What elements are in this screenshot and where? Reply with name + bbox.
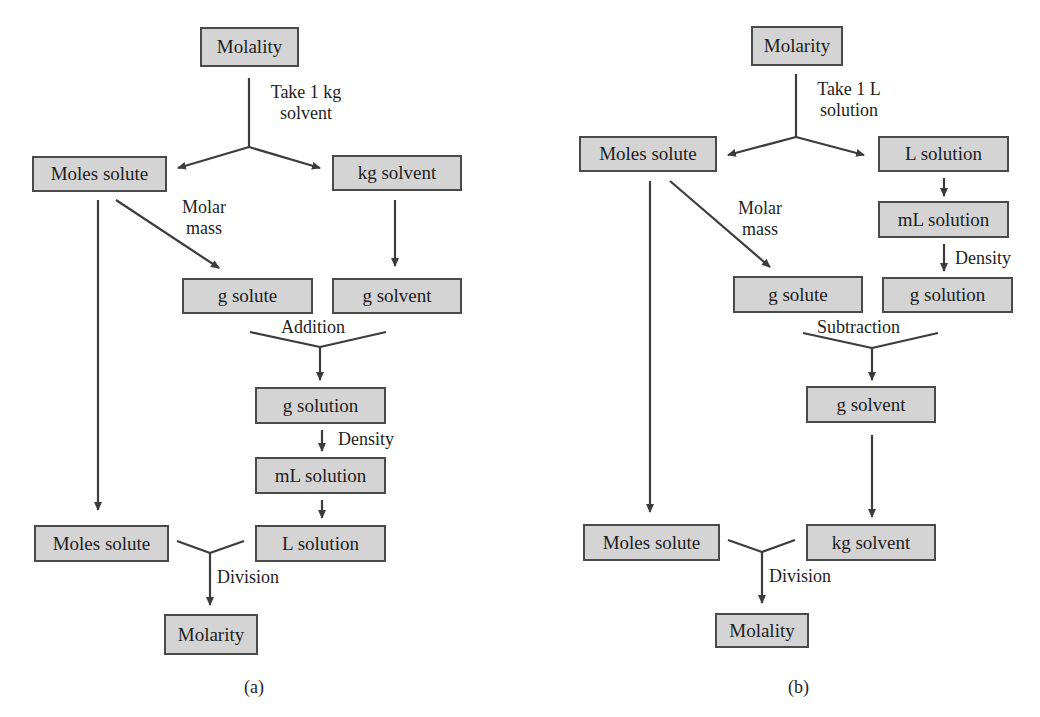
box-l-solution: L solution xyxy=(255,525,386,562)
box-g-solvent: g solvent xyxy=(332,278,462,314)
label-addition: Addition xyxy=(281,317,345,338)
box-ml-solution: mL solution xyxy=(255,457,386,494)
label-take-line1: Take 1 kg xyxy=(258,82,354,103)
box-moles-solute: Moles solute xyxy=(32,156,167,192)
box-g-solute: g solute xyxy=(733,276,863,313)
label-molar-line1: Molar xyxy=(176,197,232,218)
label-molar-mass: Molar mass xyxy=(176,197,232,239)
label-subtraction: Subtraction xyxy=(817,317,900,338)
label-take-line1: Take 1 L xyxy=(806,79,892,100)
label-take-1l: Take 1 L solution xyxy=(806,79,892,121)
box-molarity-result: Molarity xyxy=(164,614,258,655)
caption-a: (a) xyxy=(244,677,264,698)
label-molar-line2: mass xyxy=(176,218,232,239)
label-molar-line1: Molar xyxy=(732,198,788,219)
label-division: Division xyxy=(217,567,279,588)
label-division: Division xyxy=(769,566,831,587)
box-l-solution: L solution xyxy=(878,136,1009,172)
label-molar-line2: mass xyxy=(732,219,788,240)
label-molar-mass: Molar mass xyxy=(732,198,788,240)
box-ml-solution: mL solution xyxy=(878,201,1009,238)
label-take-line2: solvent xyxy=(258,103,354,124)
box-moles-solute-bottom: Moles solute xyxy=(34,525,169,562)
box-molarity-start: Molarity xyxy=(751,26,843,66)
box-kg-solvent: kg solvent xyxy=(332,155,462,191)
box-molality-result: Molality xyxy=(715,613,809,648)
box-g-solution: g solution xyxy=(882,277,1013,313)
box-moles-solute: Moles solute xyxy=(579,136,717,172)
box-g-solution: g solution xyxy=(255,387,386,424)
box-g-solvent: g solvent xyxy=(806,386,936,423)
box-g-solute: g solute xyxy=(182,278,313,314)
box-kg-solvent: kg solvent xyxy=(806,524,936,561)
label-density: Density xyxy=(955,248,1011,269)
label-density: Density xyxy=(338,429,394,450)
box-molality-start: Molality xyxy=(200,27,299,67)
box-moles-solute-bottom: Moles solute xyxy=(583,524,720,561)
label-take-line2: solution xyxy=(806,100,892,121)
caption-b: (b) xyxy=(788,677,809,698)
label-take-1kg: Take 1 kg solvent xyxy=(258,82,354,124)
